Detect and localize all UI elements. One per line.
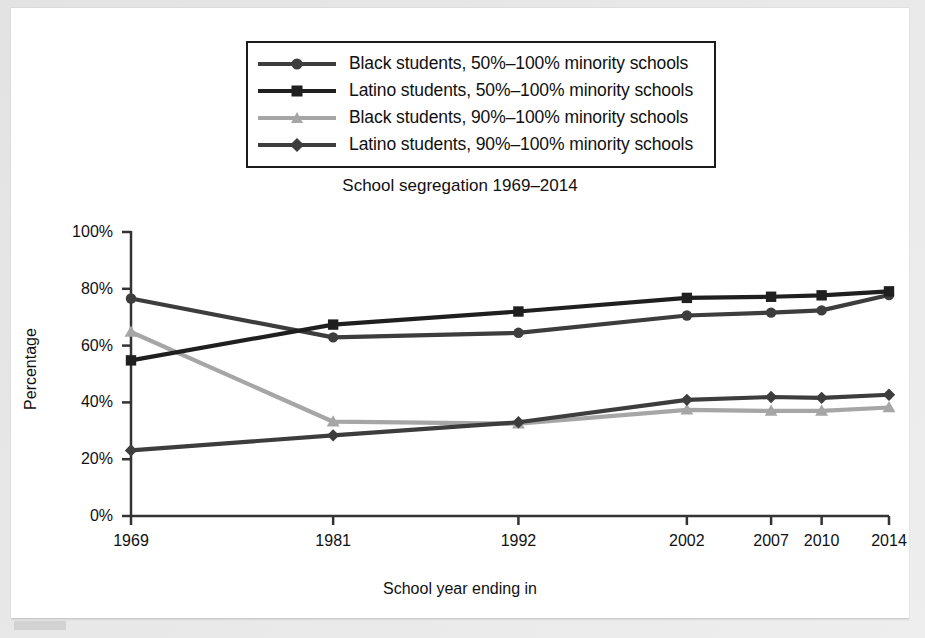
circle-marker-icon xyxy=(513,328,523,338)
series-line xyxy=(131,332,889,424)
scroll-indicator[interactable] xyxy=(14,621,66,630)
circle-marker-icon xyxy=(816,305,826,315)
circle-marker-icon xyxy=(766,307,776,317)
diamond-marker-icon xyxy=(765,391,777,403)
page-background: Black students, 50%–100% minority school… xyxy=(0,0,925,638)
series-1 xyxy=(126,286,894,365)
circle-marker-icon xyxy=(126,293,136,303)
diamond-marker-icon xyxy=(327,429,339,441)
diamond-marker-icon xyxy=(125,444,137,456)
chart-figure: Black students, 50%–100% minority school… xyxy=(11,8,909,618)
plot-canvas xyxy=(11,8,909,618)
page-shadow xyxy=(11,618,909,621)
square-marker-icon xyxy=(884,286,894,296)
document-page: Black students, 50%–100% minority school… xyxy=(11,8,909,618)
series-3 xyxy=(125,389,895,457)
diamond-marker-icon xyxy=(815,392,827,404)
square-marker-icon xyxy=(328,319,338,329)
diamond-marker-icon xyxy=(681,394,693,406)
triangle-marker-icon xyxy=(125,326,138,337)
square-marker-icon xyxy=(513,306,523,316)
square-marker-icon xyxy=(816,290,826,300)
square-marker-icon xyxy=(766,292,776,302)
square-marker-icon xyxy=(682,293,692,303)
series-line xyxy=(131,395,889,451)
square-marker-icon xyxy=(126,355,136,365)
diamond-marker-icon xyxy=(883,389,895,401)
circle-marker-icon xyxy=(682,310,692,320)
circle-marker-icon xyxy=(328,332,338,342)
